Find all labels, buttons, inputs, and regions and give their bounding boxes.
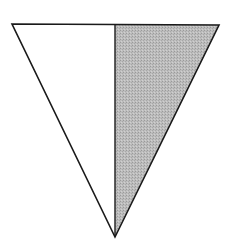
diagram-canvas bbox=[0, 0, 225, 250]
triangle-diagram bbox=[0, 0, 225, 250]
